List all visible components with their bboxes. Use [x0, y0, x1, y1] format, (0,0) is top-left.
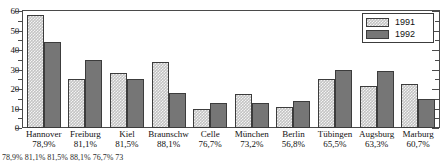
bar-1991 [193, 109, 210, 129]
x-tick-city: Marburg [397, 129, 439, 139]
x-tick-percent: 60,7% [397, 139, 439, 149]
bar-1992 [252, 103, 269, 128]
bar-1991 [152, 62, 169, 128]
bar-1991 [360, 86, 377, 128]
legend-item-1992: 1992 [366, 29, 430, 40]
x-tick-city: Freiburg [65, 129, 107, 139]
x-tick-label: Berlin56,8% [273, 129, 315, 149]
y-tick-major [15, 89, 22, 90]
bar-group [189, 11, 231, 128]
y-tick-major [15, 70, 22, 71]
bar-group [148, 11, 190, 128]
bar-1992 [127, 79, 144, 128]
x-tick-label: München73,2% [231, 129, 273, 149]
x-tick-percent: 65,5% [314, 139, 356, 149]
bar-group [106, 11, 148, 128]
bar-group [65, 11, 107, 128]
y-axis: 0102030405060 [0, 0, 22, 138]
x-tick-city: Celle [189, 129, 231, 139]
bar-1991 [276, 107, 293, 128]
legend-swatch-1991 [366, 18, 389, 27]
bar-group [231, 11, 273, 128]
bar-1992 [377, 71, 394, 128]
y-tick-major [15, 50, 22, 51]
x-tick-percent: 73,2% [231, 139, 273, 149]
bar-1992 [335, 70, 352, 129]
legend-item-1991: 1991 [366, 17, 430, 28]
bar-1991 [68, 79, 85, 128]
x-tick-label: Augsburg63,3% [356, 129, 398, 149]
x-axis: Hannover78,9%Freiburg81,1%Kiel81,5%Braun… [23, 129, 439, 151]
legend-label-1992: 1992 [395, 30, 415, 39]
bar-1992 [418, 99, 435, 128]
bar-1992 [169, 93, 186, 128]
bar-1992 [293, 101, 310, 128]
bar-1991 [27, 15, 44, 128]
x-tick-label: Kiel81,5% [106, 129, 148, 149]
x-tick-percent: 81,5% [106, 139, 148, 149]
x-tick-city: Braunschw [148, 129, 190, 139]
legend-label-1991: 1991 [395, 18, 415, 27]
x-tick-percent: 63,3% [356, 139, 398, 149]
bar-1992 [44, 42, 61, 128]
y-tick-major [15, 109, 22, 110]
x-tick-label: Braunschw88,1% [148, 129, 190, 149]
x-tick-percent: 76,7% [189, 139, 231, 149]
x-tick-percent: 78,9% [23, 139, 65, 149]
x-tick-city: Berlin [273, 129, 315, 139]
chart-figure: 0102030405060 1991 1992 Hannover78,9%Fre… [0, 0, 447, 161]
bar-1991 [235, 94, 252, 128]
bar-group [23, 11, 65, 128]
y-tick-major [15, 31, 22, 32]
bar-1992 [210, 103, 227, 128]
y-tick-major [15, 11, 22, 12]
x-tick-city: München [231, 129, 273, 139]
x-tick-label: Tübingen65,5% [314, 129, 356, 149]
chart-legend: 1991 1992 [362, 13, 434, 43]
figure-caption: 78,9% 81,1% 81,5% 88,1% 76,7% 73 [2, 154, 302, 161]
x-tick-label: Marburg60,7% [397, 129, 439, 149]
bar-1992 [85, 60, 102, 128]
x-tick-label: Freiburg81,1% [65, 129, 107, 149]
y-tick-major [15, 128, 22, 129]
legend-swatch-1992 [366, 30, 389, 39]
x-tick-city: Kiel [106, 129, 148, 139]
x-tick-label: Hannover78,9% [23, 129, 65, 149]
x-tick-city: Augsburg [356, 129, 398, 139]
x-tick-city: Tübingen [314, 129, 356, 139]
x-tick-percent: 81,1% [65, 139, 107, 149]
bar-1991 [110, 73, 127, 128]
bar-1991 [318, 79, 335, 128]
bar-1991 [401, 84, 418, 128]
x-tick-percent: 56,8% [273, 139, 315, 149]
x-tick-percent: 88,1% [148, 139, 190, 149]
x-tick-label: Celle76,7% [189, 129, 231, 149]
bar-group [314, 11, 356, 128]
x-tick-city: Hannover [23, 129, 65, 139]
bar-group [273, 11, 315, 128]
